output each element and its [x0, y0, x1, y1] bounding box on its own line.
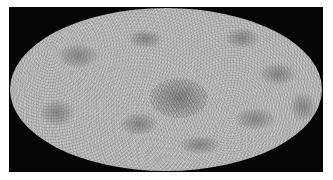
- cold-spot: [128, 30, 162, 48]
- cold-spot: [235, 108, 275, 130]
- cold-spot: [40, 100, 74, 126]
- cold-spot: [290, 93, 316, 121]
- cold-spot: [180, 136, 220, 154]
- cold-spot: [120, 113, 158, 135]
- cold-spot: [225, 28, 259, 48]
- sky-map-ellipse: [10, 8, 322, 171]
- cold-spot: [260, 63, 296, 85]
- map-frame: [9, 7, 323, 172]
- cold-spot: [58, 44, 98, 68]
- cold-spot: [150, 78, 208, 118]
